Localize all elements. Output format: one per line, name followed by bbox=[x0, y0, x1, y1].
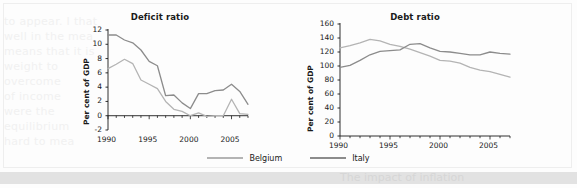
plot-area-debt bbox=[340, 24, 510, 136]
deficit-line-svg bbox=[108, 30, 248, 130]
y-tick-label: 8 bbox=[72, 54, 102, 63]
legend-item-italy[interactable]: Italy bbox=[310, 154, 369, 163]
debt-line-svg bbox=[340, 24, 510, 136]
bottom-band-bleed-text: The impact of inflation bbox=[340, 172, 464, 184]
chart-panel-deficit-ratio: Deficit ratio Per cent of GDP 121086420-… bbox=[60, 0, 260, 168]
bottom-gray-band bbox=[0, 172, 577, 184]
plot-area-deficit bbox=[108, 30, 248, 130]
figure-container: to appear. I thatwell in the meameans th… bbox=[0, 0, 577, 188]
x-tick-label: 2005 bbox=[221, 135, 240, 144]
chart-legend: BelgiumItaly bbox=[0, 150, 577, 166]
x-tick-label: 1995 bbox=[138, 135, 157, 144]
y-tick-label: 40 bbox=[304, 103, 334, 112]
chart-title-deficit: Deficit ratio bbox=[60, 12, 260, 22]
y-tick-label: 100 bbox=[304, 61, 334, 70]
legend-line-icon-belgium bbox=[207, 157, 243, 159]
y-tick-label: 4 bbox=[72, 82, 102, 91]
y-tick-label: 20 bbox=[304, 117, 334, 126]
y-tick-label: 0 bbox=[72, 111, 102, 120]
x-tick-label: 1990 bbox=[97, 135, 116, 144]
chart-panel-debt-ratio: Debt ratio Per cent of GDP 1601401201008… bbox=[300, 0, 530, 168]
legend-item-belgium[interactable]: Belgium bbox=[207, 154, 282, 163]
y-tick-label: 160 bbox=[304, 19, 334, 28]
y-tick-label: -2 bbox=[72, 125, 102, 134]
chart-title-debt: Debt ratio bbox=[300, 12, 530, 22]
x-tick-label: 1990 bbox=[329, 141, 348, 150]
y-tick-label: 0 bbox=[304, 131, 334, 140]
y-tick-label: 2 bbox=[72, 96, 102, 105]
y-tick-label: 140 bbox=[304, 33, 334, 42]
y-tick-label: 10 bbox=[72, 39, 102, 48]
x-tick-label: 1995 bbox=[379, 141, 398, 150]
legend-line-icon-italy bbox=[310, 157, 346, 159]
y-tick-label: 120 bbox=[304, 47, 334, 56]
x-tick-label: 2000 bbox=[179, 135, 198, 144]
y-tick-label: 60 bbox=[304, 89, 334, 98]
legend-label-italy: Italy bbox=[352, 154, 369, 163]
y-tick-label: 6 bbox=[72, 68, 102, 77]
legend-label-belgium: Belgium bbox=[249, 154, 282, 163]
y-tick-label: 80 bbox=[304, 75, 334, 84]
x-tick-label: 2000 bbox=[429, 141, 448, 150]
y-tick-label: 12 bbox=[72, 25, 102, 34]
x-tick-label: 2005 bbox=[479, 141, 498, 150]
